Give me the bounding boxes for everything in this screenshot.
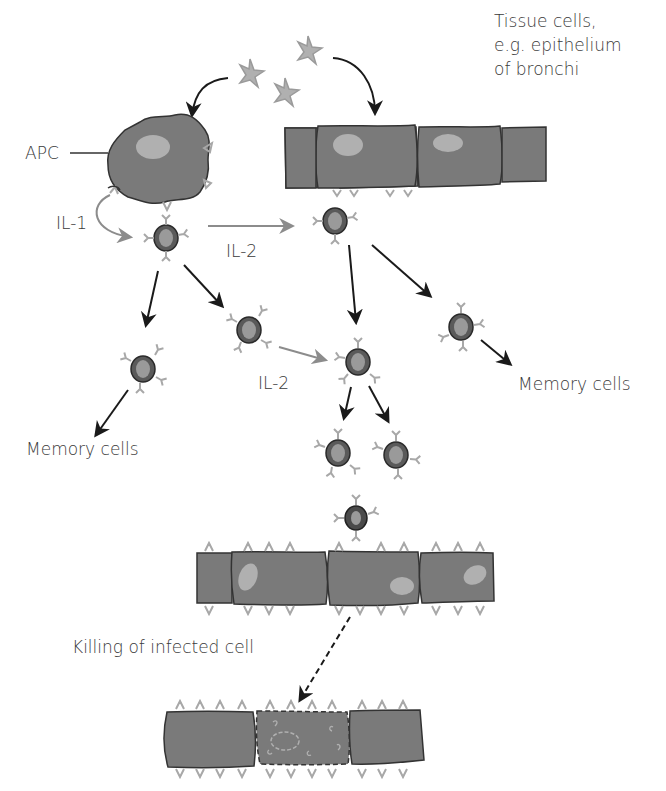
killing-label: Killing of infected cell <box>72 636 254 659</box>
t-cell-2 <box>313 208 358 244</box>
t-cell-1 <box>144 215 189 261</box>
arrow-killing-dashed <box>300 617 350 700</box>
epithelium-killed <box>164 701 424 777</box>
memory-cells-left-label: Memory cells <box>26 438 139 461</box>
arrow-antigen-to-tissue <box>333 58 375 113</box>
il2-mid-label: IL-2 <box>258 372 289 395</box>
arrow-il2-mid <box>279 347 325 360</box>
t-cell-memory-right <box>438 303 484 351</box>
arrow <box>96 390 128 435</box>
arrow <box>344 387 351 418</box>
t-cell-memory-left <box>120 344 166 393</box>
epithelium-infected <box>197 543 494 614</box>
epithelium-top <box>285 125 546 196</box>
il1-label: IL-1 <box>56 212 87 235</box>
antigen-star-icon <box>275 78 299 106</box>
tissue-cells-label-line3: of bronchi <box>494 58 579 81</box>
arrow-il1 <box>97 195 130 237</box>
t-cell-6 <box>372 431 420 479</box>
tissue-cells-label-line1: Tissue cells, <box>494 10 596 33</box>
t-cell-4 <box>334 338 380 384</box>
t-cell-5 <box>314 429 360 478</box>
arrow <box>481 340 510 364</box>
antigen-particles <box>240 36 322 106</box>
arrow <box>369 386 388 421</box>
memory-cells-right-label: Memory cells <box>518 373 631 396</box>
arrow <box>146 271 158 325</box>
arrow-antigen-to-apc <box>192 78 228 115</box>
antigen-star-icon <box>298 36 322 64</box>
t-cell-killer <box>334 495 379 541</box>
apc-label: APC <box>25 142 59 165</box>
antigen-star-icon <box>240 59 264 87</box>
arrow <box>372 245 430 296</box>
tissue-cells-label-line2: e.g. epithelium <box>494 34 622 57</box>
arrow <box>349 245 356 322</box>
apc-cell <box>108 114 212 210</box>
il2-top-label: IL-2 <box>226 240 257 263</box>
t-cell-3 <box>226 305 271 352</box>
arrow <box>184 265 222 306</box>
